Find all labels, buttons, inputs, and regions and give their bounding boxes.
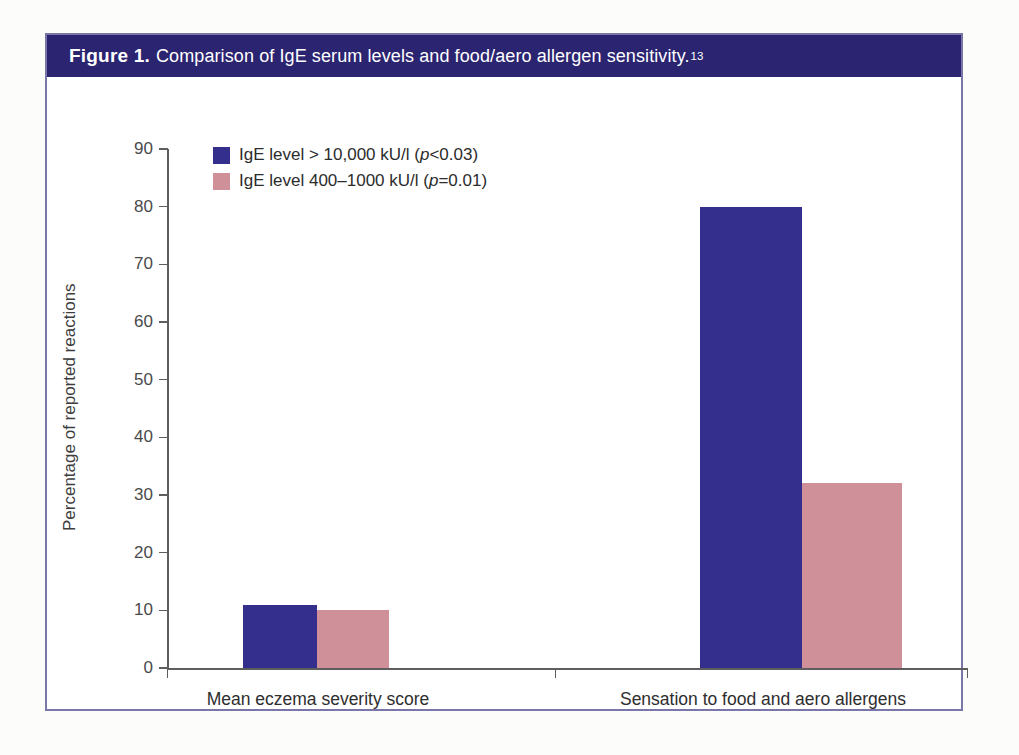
bar-series-1-category-2 <box>700 207 802 668</box>
chart-legend: IgE level > 10,000 kU/l (p<0.03) IgE lev… <box>213 145 487 197</box>
legend-swatch-series-2 <box>213 173 230 190</box>
figure-caption-bar: Figure 1. Comparison of IgE serum levels… <box>47 35 961 77</box>
bar-series-2-category-1 <box>317 610 389 668</box>
legend-item: IgE level 400–1000 kU/l (p=0.01) <box>213 171 487 191</box>
figure-reference-superscript: 13 <box>691 50 704 62</box>
x-axis-category-label: Sensation to food and aero allergens <box>563 689 963 710</box>
bars-layer <box>47 77 961 668</box>
x-axis-tick <box>555 668 556 678</box>
figure-label: Figure 1. <box>69 45 150 67</box>
figure-caption-text: Comparison of IgE serum levels and food/… <box>156 46 690 67</box>
x-axis-category-label: Mean eczema severity score <box>118 689 518 710</box>
chart-plot-area: Percentage of reported reactions 0102030… <box>47 77 961 713</box>
x-axis-line <box>167 668 967 670</box>
figure-container: Figure 1. Comparison of IgE serum levels… <box>45 33 963 711</box>
bar-series-1-category-1 <box>243 605 317 668</box>
legend-swatch-series-1 <box>213 147 230 164</box>
bar-series-2-category-2 <box>802 483 902 668</box>
x-axis-tick <box>167 668 168 678</box>
legend-label-series-1: IgE level > 10,000 kU/l (p<0.03) <box>239 145 478 165</box>
x-axis-tick <box>967 668 968 678</box>
legend-item: IgE level > 10,000 kU/l (p<0.03) <box>213 145 487 165</box>
legend-label-series-2: IgE level 400–1000 kU/l (p=0.01) <box>239 171 487 191</box>
